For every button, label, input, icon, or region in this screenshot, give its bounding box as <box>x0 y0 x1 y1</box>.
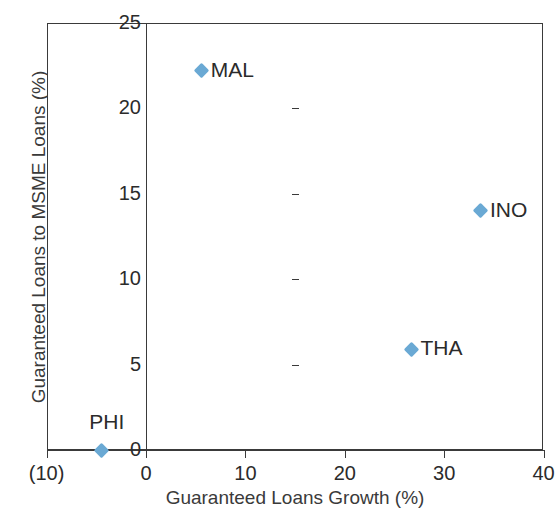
y-tick: 0 <box>146 450 153 451</box>
y-tick-mark <box>292 279 299 280</box>
x-tick-mark <box>345 450 346 458</box>
data-point-label: PHI <box>89 410 124 434</box>
y-tick: 5 <box>146 365 153 366</box>
y-axis-line <box>146 23 147 451</box>
y-tick: 10 <box>146 279 153 280</box>
y-tick-mark <box>292 108 299 109</box>
y-tick: 20 <box>146 108 153 109</box>
x-tick-label: 10 <box>234 462 256 485</box>
x-tick: 0 <box>146 450 147 458</box>
y-tick-label: 5 <box>130 353 141 376</box>
y-tick-mark <box>292 450 299 451</box>
y-tick: 25 <box>146 23 153 24</box>
data-point-label: MAL <box>211 58 254 82</box>
x-tick-mark <box>146 450 147 458</box>
y-tick-label: 15 <box>119 182 141 205</box>
x-tick-mark <box>444 450 445 458</box>
data-point-label: THA <box>420 336 462 360</box>
x-tick-mark <box>245 450 246 458</box>
scatter-chart-figure: Guaranteed Loans to MSME Loans (%) Guara… <box>0 0 555 515</box>
x-tick: 20 <box>345 450 346 458</box>
y-tick-mark <box>292 365 299 366</box>
x-tick-label: (10) <box>29 462 65 485</box>
y-tick-label: 20 <box>119 96 141 119</box>
x-tick-label: 20 <box>334 462 356 485</box>
x-tick-mark <box>544 450 545 458</box>
x-tick-mark <box>47 450 48 458</box>
plot-frame <box>47 23 543 450</box>
x-tick: 40 <box>544 450 545 458</box>
x-tick-label: 30 <box>433 462 455 485</box>
x-tick-label: 0 <box>140 462 151 485</box>
x-axis-title: Guaranteed Loans Growth (%) <box>47 487 543 509</box>
x-tick: 30 <box>444 450 445 458</box>
y-tick-mark <box>292 194 299 195</box>
y-tick-label: 10 <box>119 267 141 290</box>
x-tick: (10) <box>47 450 48 458</box>
data-point-label: INO <box>490 198 527 222</box>
y-tick-mark <box>292 23 299 24</box>
x-tick: 10 <box>245 450 246 458</box>
y-tick: 15 <box>146 194 153 195</box>
x-tick-label: 40 <box>532 462 554 485</box>
y-tick-label: 0 <box>130 438 141 461</box>
y-tick-label: 25 <box>119 11 141 34</box>
